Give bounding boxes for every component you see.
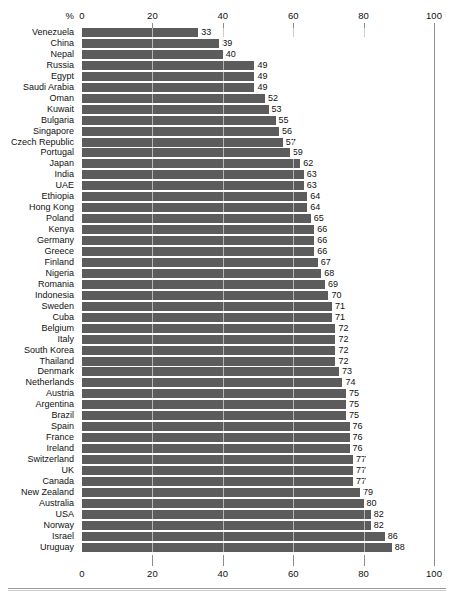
bar-value-label: 49: [257, 82, 267, 92]
bar-value-label: 67: [321, 257, 331, 267]
axis-tick-label: 40: [218, 568, 229, 579]
bar: [82, 39, 219, 48]
axis-tick-mark: [293, 555, 294, 566]
bar-value-label: 72: [338, 334, 348, 344]
category-label: Argentina: [0, 399, 74, 409]
bar-row: Bulgaria55: [0, 116, 454, 126]
bar: [82, 488, 360, 497]
bar-value-label: 66: [317, 246, 327, 256]
category-label: New Zealand: [0, 487, 74, 497]
category-label: Germany: [0, 235, 74, 245]
category-label: Brazil: [0, 410, 74, 420]
category-label: Kuwait: [0, 104, 74, 114]
bar-value-label: 52: [268, 93, 278, 103]
bar-value-label: 82: [374, 520, 384, 530]
bar-value-label: 71: [335, 312, 345, 322]
bar: [82, 247, 314, 256]
category-label: Romania: [0, 279, 74, 289]
bar-value-label: 68: [324, 268, 334, 278]
bar: [82, 543, 392, 552]
bar-value-label: 72: [338, 356, 348, 366]
bar-value-label: 63: [307, 169, 317, 179]
bar: [82, 214, 311, 223]
bar-value-label: 79: [363, 487, 373, 497]
bar-row: Ethiopia64: [0, 192, 454, 202]
bar-row: China39: [0, 39, 454, 49]
bar-value-label: 74: [345, 377, 355, 387]
bar-value-label: 77: [356, 454, 366, 464]
bar-row: India63: [0, 170, 454, 180]
bar: [82, 94, 265, 103]
bar-value-label: 55: [279, 115, 289, 125]
bar-value-label: 70: [331, 290, 341, 300]
axis-tick-label: 80: [358, 10, 369, 21]
axis-tick-label: 60: [288, 568, 299, 579]
category-label: France: [0, 432, 74, 442]
category-label: Oman: [0, 93, 74, 103]
bar-value-label: 77: [356, 476, 366, 486]
bar-row: Spain76: [0, 422, 454, 432]
bar-value-label: 64: [310, 191, 320, 201]
bar: [82, 116, 276, 125]
bar: [82, 367, 339, 376]
bar-row: Kenya66: [0, 225, 454, 235]
category-label: Denmark: [0, 366, 74, 376]
bar-value-label: 64: [310, 202, 320, 212]
bar-value-label: 62: [303, 158, 313, 168]
bar-value-label: 39: [222, 38, 232, 48]
category-label: South Korea: [0, 345, 74, 355]
bar-value-label: 69: [328, 279, 338, 289]
category-label: Italy: [0, 334, 74, 344]
bar-row: South Korea72: [0, 346, 454, 356]
bar: [82, 433, 350, 442]
bar: [82, 357, 335, 366]
bar-value-label: 88: [395, 542, 405, 552]
bar: [82, 455, 353, 464]
bar-row: Netherlands74: [0, 378, 454, 388]
category-label: Russia: [0, 60, 74, 70]
bar-row: Nepal40: [0, 50, 454, 60]
bar: [82, 269, 321, 278]
category-label: Thailand: [0, 356, 74, 366]
axis-tick-label: 20: [147, 568, 158, 579]
bar-row: Israel86: [0, 532, 454, 542]
category-label: Switzerland: [0, 454, 74, 464]
bar: [82, 499, 364, 508]
axis-tick-label: 0: [79, 10, 84, 21]
axis-tick-mark: [223, 555, 224, 566]
bar-row: Switzerland77: [0, 455, 454, 465]
bottom-axis: 020406080100: [0, 555, 454, 585]
bar: [82, 159, 300, 168]
bar-value-label: 56: [282, 126, 292, 136]
category-label: Greece: [0, 246, 74, 256]
category-label: Netherlands: [0, 377, 74, 387]
axis-tick-label: 80: [358, 568, 369, 579]
category-label: Norway: [0, 520, 74, 530]
category-label: Venezuela: [0, 27, 74, 37]
bar-row: Italy72: [0, 335, 454, 345]
axis-tick-label: 100: [426, 568, 442, 579]
bar-row: Belgium72: [0, 324, 454, 334]
axis-tick-label: 100: [426, 10, 442, 21]
bar-row: Ireland76: [0, 444, 454, 454]
category-label: Nepal: [0, 49, 74, 59]
category-label: Egypt: [0, 71, 74, 81]
bar: [82, 302, 332, 311]
bar-value-label: 57: [286, 137, 296, 147]
unit-label: %: [58, 10, 74, 21]
bar-row: Hong Kong64: [0, 203, 454, 213]
bar: [82, 225, 314, 234]
bar: [82, 335, 335, 344]
category-label: Japan: [0, 158, 74, 168]
category-label: Canada: [0, 476, 74, 486]
category-label: Kenya: [0, 224, 74, 234]
bar: [82, 72, 254, 81]
bar-row: Thailand72: [0, 357, 454, 367]
bar-value-label: 72: [338, 345, 348, 355]
bar-row: Canada77: [0, 477, 454, 487]
bar-row: Saudi Arabia49: [0, 83, 454, 93]
bar-value-label: 76: [353, 421, 363, 431]
bar-value-label: 86: [388, 531, 398, 541]
bar-value-label: 80: [367, 498, 377, 508]
bar-value-label: 59: [293, 147, 303, 157]
